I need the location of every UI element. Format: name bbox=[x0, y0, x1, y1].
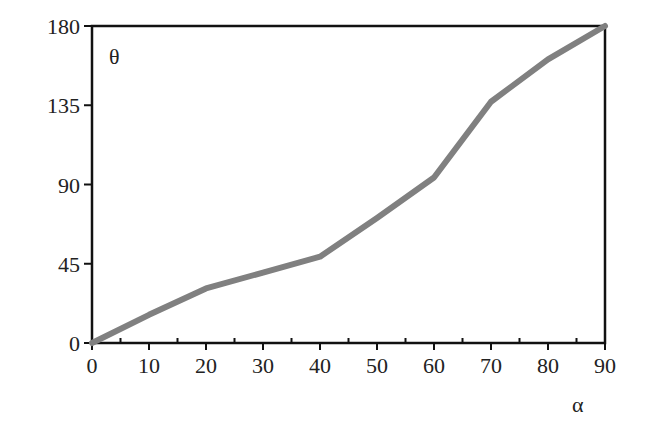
x-axis-label: α bbox=[572, 392, 584, 417]
y-tick-label: 0 bbox=[69, 331, 80, 356]
x-tick-label: 80 bbox=[537, 353, 559, 378]
line-chart: 0102030405060708090 04590135180 θ α bbox=[0, 0, 646, 436]
y-axis-label: θ bbox=[109, 44, 120, 69]
y-tick-label: 135 bbox=[47, 93, 80, 118]
y-tick-label: 45 bbox=[58, 252, 80, 277]
y-axis-ticks: 04590135180 bbox=[47, 14, 92, 356]
y-tick-label: 180 bbox=[47, 14, 80, 39]
series-line bbox=[92, 26, 605, 343]
x-tick-label: 40 bbox=[309, 353, 331, 378]
data-series bbox=[92, 26, 605, 343]
x-tick-label: 20 bbox=[195, 353, 217, 378]
x-tick-label: 0 bbox=[87, 353, 98, 378]
x-tick-label: 30 bbox=[252, 353, 274, 378]
y-tick-label: 90 bbox=[58, 173, 80, 198]
x-tick-label: 90 bbox=[594, 353, 616, 378]
x-tick-label: 50 bbox=[366, 353, 388, 378]
x-tick-label: 60 bbox=[423, 353, 445, 378]
x-tick-label: 70 bbox=[480, 353, 502, 378]
x-tick-label: 10 bbox=[138, 353, 160, 378]
